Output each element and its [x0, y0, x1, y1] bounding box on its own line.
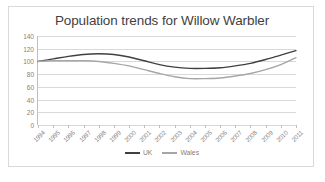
x-axis-tick-label: 2004 [183, 129, 197, 143]
x-axis-tick-mark [250, 125, 251, 128]
x-axis-tick-mark [296, 125, 297, 128]
y-axis-tick-label: 40 [27, 96, 34, 103]
x-axis-tick-label: 2002 [153, 129, 167, 143]
x-axis-tick-label: 2000 [123, 129, 137, 143]
plot-area: 020406080100120140 199419951996199719981… [38, 36, 296, 125]
x-axis-tick-mark [53, 125, 54, 128]
legend-swatch-icon [125, 152, 140, 154]
chart-title: Population trends for Willow Warbler [9, 13, 315, 28]
legend-entry-wales: Wales [162, 149, 199, 156]
x-axis-tick-label: 2005 [199, 129, 213, 143]
gridline [38, 125, 296, 126]
x-axis-tick-mark [235, 125, 236, 128]
x-axis-tick-mark [220, 125, 221, 128]
x-axis-tick-label: 2001 [138, 129, 152, 143]
legend-entry-uk: UK [125, 149, 152, 156]
x-axis-tick-mark [68, 125, 69, 128]
x-axis-tick-label: 1997 [77, 129, 91, 143]
chart-frame: Population trends for Willow Warbler 020… [8, 6, 314, 167]
x-axis-tick-mark [205, 125, 206, 128]
x-axis-tick-label: 1996 [62, 129, 76, 143]
x-axis-tick-mark [129, 125, 130, 128]
legend-label: Wales [180, 149, 199, 156]
x-axis-tick-label: 2011 [290, 129, 304, 143]
y-axis-tick-label: 120 [23, 45, 34, 52]
x-axis-tick-mark [175, 125, 176, 128]
y-axis-tick-label: 0 [30, 122, 34, 129]
x-axis-tick-label: 2007 [229, 129, 243, 143]
x-axis-tick-label: 1998 [92, 129, 106, 143]
y-axis-tick-label: 80 [27, 71, 34, 78]
x-axis-tick-label: 2003 [168, 129, 182, 143]
x-axis-tick-mark [144, 125, 145, 128]
series-line-uk [38, 51, 296, 69]
x-axis-tick-label: 2008 [244, 129, 258, 143]
legend-label: UK [143, 149, 152, 156]
x-axis-tick-mark [99, 125, 100, 128]
series-line-wales [38, 58, 296, 79]
legend-swatch-icon [162, 152, 177, 154]
y-axis-tick-label: 20 [27, 109, 34, 116]
x-axis-tick-mark [114, 125, 115, 128]
x-axis-tick-mark [159, 125, 160, 128]
y-axis-tick-label: 60 [27, 83, 34, 90]
x-axis-tick-mark [38, 125, 39, 128]
x-axis-tick-mark [84, 125, 85, 128]
x-axis-tick-label: 1999 [108, 129, 122, 143]
x-axis-tick-mark [266, 125, 267, 128]
x-axis-tick-mark [281, 125, 282, 128]
x-axis-tick-label: 2010 [274, 129, 288, 143]
x-axis-tick-label: 2006 [214, 129, 228, 143]
x-axis-tick-label: 2009 [259, 129, 273, 143]
y-axis-tick-label: 100 [23, 58, 34, 65]
x-axis-tick-mark [190, 125, 191, 128]
x-axis-tick-label: 1994 [32, 129, 46, 143]
x-axis-tick-label: 1995 [47, 129, 61, 143]
chart-figure: Population trends for Willow Warbler 020… [0, 0, 325, 182]
series-lines [38, 36, 296, 125]
chart-legend: UKWales [9, 149, 315, 156]
y-axis-tick-label: 140 [23, 33, 34, 40]
